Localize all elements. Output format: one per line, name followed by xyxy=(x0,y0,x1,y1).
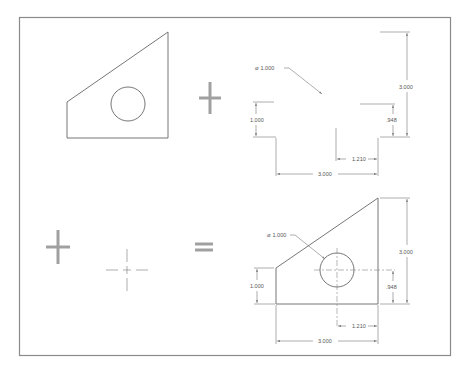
plus-operator-icon xyxy=(199,82,221,114)
result-hole-height-label: .948 xyxy=(386,284,397,290)
overall-height-label: 3.000 xyxy=(399,84,413,90)
result-overall-width-label: 3.000 xyxy=(318,338,332,344)
hole-offset-label: 1.210 xyxy=(352,156,366,162)
result-panel: ⌀ 1.000 1.000 3.000 .948 1.210 3.000 xyxy=(250,198,413,344)
dimensions-panel: ⌀ 1.000 1.000 3.000 .948 1.210 3.000 xyxy=(250,32,413,177)
diameter-leader xyxy=(284,68,322,94)
plus-operator-icon xyxy=(46,230,70,264)
equals-operator-icon xyxy=(195,244,213,250)
part-outline xyxy=(67,32,168,138)
drawing-canvas: ⌀ 1.000 1.000 3.000 .948 1.210 3.000 xyxy=(0,0,470,375)
hole-height-label: .948 xyxy=(386,117,397,123)
result-overall-height-label: 3.000 xyxy=(399,249,413,255)
result-left-height-label: 1.000 xyxy=(250,283,264,289)
hole-circle xyxy=(111,87,145,121)
center-mark-icon xyxy=(106,249,148,291)
hole-diameter-label: ⌀ 1.000 xyxy=(255,65,274,71)
left-height-label: 1.000 xyxy=(250,117,264,123)
overall-width-label: 3.000 xyxy=(318,171,332,177)
result-hole-diameter-label: ⌀ 1.000 xyxy=(267,232,286,238)
drawing-frame xyxy=(20,18,451,356)
result-hole-offset-label: 1.210 xyxy=(352,323,366,329)
result-part-outline xyxy=(276,198,378,304)
part-outline-panel xyxy=(67,32,168,138)
